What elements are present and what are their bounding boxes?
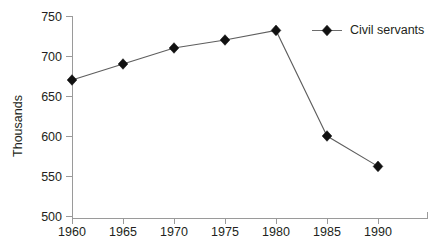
data-point-marker: [373, 161, 383, 172]
y-tick-label-550: 550: [41, 170, 62, 184]
legend: Civil servants: [312, 23, 424, 37]
legend-label-civil-servants: Civil servants: [350, 23, 424, 37]
y-tick-label-500: 500: [41, 210, 62, 224]
x-tick-label-1985: 1985: [313, 225, 341, 239]
data-point-marker: [322, 131, 332, 142]
y-tick-label-750: 750: [41, 10, 62, 24]
y-axis-ticks: [66, 17, 72, 217]
series-markers-civil-servants: [67, 25, 383, 172]
y-tick-label-700: 700: [41, 50, 62, 64]
y-axis-title: Thousands: [11, 95, 25, 157]
x-tick-label-1980: 1980: [262, 225, 290, 239]
data-point-marker: [67, 75, 77, 86]
y-tick-label-600: 600: [41, 130, 62, 144]
data-point-marker: [220, 35, 230, 46]
series-line-civil-servants: [72, 30, 378, 166]
diamond-marker-icon: [322, 25, 332, 36]
x-tick-label-1975: 1975: [211, 225, 239, 239]
data-point-marker: [271, 25, 281, 36]
line-chart: 750 700 650 600 550 500 1960 1965 1970 1…: [0, 0, 445, 252]
data-point-marker: [118, 59, 128, 70]
data-point-marker: [169, 43, 179, 54]
x-tick-label-1960: 1960: [58, 225, 86, 239]
x-tick-label-1990: 1990: [364, 225, 392, 239]
series-civil-servants: [67, 25, 383, 172]
y-tick-label-650: 650: [41, 90, 62, 104]
x-tick-label-1970: 1970: [160, 225, 188, 239]
chart-canvas: 750 700 650 600 550 500 1960 1965 1970 1…: [0, 0, 445, 252]
x-tick-label-1965: 1965: [109, 225, 137, 239]
